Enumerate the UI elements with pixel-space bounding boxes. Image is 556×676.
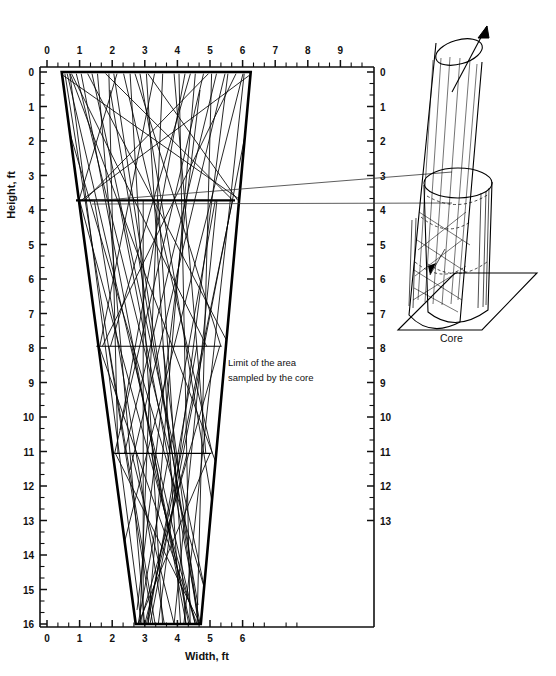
width-bottom-axis: 0 1 2 3 4 5 6 Width, ft [40,620,374,662]
source-cylinder-top-ellipse [424,168,492,198]
ground-plane-parallelogram [398,273,537,330]
right-tick-label: 12 [380,481,392,492]
bottom-axis-title: Width, ft [185,650,229,662]
left-tick-label: 7 [28,309,34,320]
bottom-tick-label: 1 [77,633,83,644]
bottom-tick-label: 5 [207,633,213,644]
core-diagram-label: Core [440,332,463,344]
bottom-tick-label: 3 [142,633,148,644]
left-tick-label: 11 [23,447,34,458]
right-tick-label: 11 [380,447,391,458]
source-cylinder-shading [478,188,489,308]
extraction-direction-arrow [452,26,489,92]
left-axis-title: Height, ft [5,171,17,219]
height-left-axis: 0 1 2 3 4 5 6 7 8 9 10 11 12 13 14 15 16… [5,67,47,630]
figure-svg: 0 1 2 3 4 5 6 7 8 9 [0,0,556,676]
left-tick-label: 8 [28,343,34,354]
bottom-axis-tick-labels: 0 1 2 3 4 5 6 [44,633,246,644]
right-tick-label: 4 [380,205,386,216]
top-tick-label: 3 [142,45,148,56]
left-tick-label: 1 [28,102,34,113]
core-exit-rim [421,217,470,229]
left-tick-label: 10 [23,412,35,423]
left-tick-label: 0 [28,67,34,78]
top-tick-label: 1 [77,45,83,56]
right-tick-label: 10 [380,412,392,423]
top-tick-label: 4 [175,45,181,56]
right-tick-label: 1 [380,102,386,113]
left-tick-label: 9 [28,378,34,389]
left-tick-label: 14 [23,550,35,561]
left-tick-label: 12 [23,481,35,492]
bottom-tick-label: 2 [109,633,115,644]
sample-traverse-lines [63,74,249,624]
right-tick-label: 2 [380,136,386,147]
right-tick-label: 9 [380,378,386,389]
left-axis-tick-labels: 0 1 2 3 4 5 6 7 8 9 10 11 12 13 14 15 16 [23,67,35,630]
right-tick-label: 6 [380,274,386,285]
left-tick-label: 16 [23,619,35,630]
right-axis-tick-labels: 0 1 2 3 4 5 6 7 8 9 10 11 12 13 [380,67,392,527]
annotation-line-2: sampled by the core [228,372,314,383]
top-tick-label: 9 [338,45,344,56]
width-top-axis: 0 1 2 3 4 5 6 7 8 9 [40,45,374,67]
right-tick-label: 5 [380,240,386,251]
core-inner-rim [415,262,466,274]
leader-lines [92,172,452,204]
extracted-core-body [409,43,482,329]
left-tick-label: 15 [23,585,35,596]
sampled-area-annotation: Limit of the area sampled by the core [228,357,314,383]
left-tick-label: 13 [23,516,35,527]
right-tick-label: 8 [380,343,386,354]
core-edge-shading [409,218,416,308]
left-tick-label: 5 [28,240,34,251]
top-tick-label: 8 [305,45,311,56]
bottom-tick-label: 4 [175,633,181,644]
height-right-axis: 0 1 2 3 4 5 6 7 8 9 10 11 12 13 [367,67,392,627]
top-tick-label: 0 [44,45,50,56]
right-tick-label: 13 [380,516,392,527]
top-tick-label: 7 [272,45,278,56]
left-axis-major-ticks [40,72,47,624]
top-tick-label: 5 [207,45,213,56]
left-tick-label: 6 [28,274,34,285]
top-axis-tick-labels: 0 1 2 3 4 5 6 7 8 9 [44,45,343,56]
right-tick-label: 0 [380,67,386,78]
left-tick-label: 2 [28,136,34,147]
bottom-tick-label: 0 [44,633,50,644]
left-tick-label: 3 [28,171,34,182]
right-tick-label: 3 [380,171,386,182]
annotation-line-1: Limit of the area [228,357,297,368]
top-tick-label: 6 [240,45,246,56]
right-axis-major-ticks [367,72,374,521]
right-tick-label: 7 [380,309,386,320]
figure-root: 0 1 2 3 4 5 6 7 8 9 [0,0,556,676]
left-tick-label: 4 [28,205,34,216]
top-tick-label: 2 [109,45,115,56]
core-sample-illustration: Core [398,26,537,344]
leader-line-lower [92,203,452,204]
bottom-tick-label: 6 [240,633,246,644]
arrow-head [478,26,489,38]
